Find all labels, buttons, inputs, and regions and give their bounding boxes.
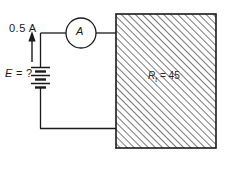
current-value-label: 0.5 A bbox=[9, 23, 37, 34]
ammeter-label: A bbox=[76, 26, 83, 37]
emf-symbol: E bbox=[5, 67, 13, 79]
source-emf-label: E = ? bbox=[5, 68, 33, 79]
circuit-diagram: 0.5 A E = ? A Rt = 45 bbox=[0, 0, 227, 172]
resistance-value-label: Rt = 45 bbox=[148, 71, 180, 83]
emf-value: = ? bbox=[13, 67, 33, 79]
resistance-value: = 45 bbox=[157, 70, 180, 81]
